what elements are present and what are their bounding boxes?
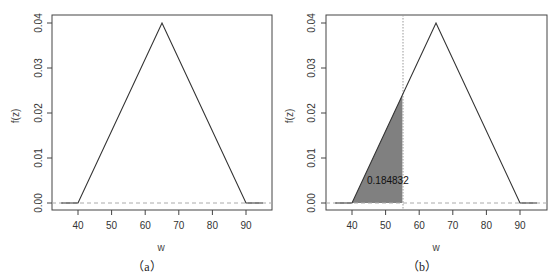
y-tick-label: 0.04 <box>306 13 317 33</box>
y-tick-label: 0.04 <box>33 13 44 33</box>
x-axis-b <box>352 210 520 215</box>
x-axis-title: w <box>156 242 165 253</box>
plot-frame-b <box>326 15 547 210</box>
y-axis-a <box>47 23 52 203</box>
x-axis-title: w <box>431 242 440 253</box>
y-tick-label: 0.01 <box>306 148 317 168</box>
x-tick-label: 70 <box>173 220 185 231</box>
x-tick-label: 90 <box>514 220 526 231</box>
y-axis-title: f(z) <box>10 109 21 123</box>
figure: 0.04 0.03 0.02 0.01 0.00 40 50 60 70 80 … <box>0 0 559 277</box>
x-tick-label: 40 <box>72 220 84 231</box>
y-tick-label: 0.02 <box>33 103 44 123</box>
x-tick-label: 50 <box>106 220 118 231</box>
area-value-annotation: 0.184832 <box>367 175 409 186</box>
x-tick-label: 60 <box>140 220 152 231</box>
x-tick-label: 70 <box>447 220 459 231</box>
x-tick-label: 40 <box>346 220 358 231</box>
panel-caption: （b） <box>407 260 437 274</box>
panel-a: 0.04 0.03 0.02 0.01 0.00 40 50 60 70 80 … <box>10 13 272 274</box>
x-tick-label: 60 <box>414 220 426 231</box>
panel-b: 0.04 0.03 0.02 0.01 0.00 40 50 60 70 80 … <box>284 13 547 274</box>
y-tick-label: 0.00 <box>33 193 44 213</box>
x-tick-label: 80 <box>481 220 493 231</box>
x-axis-a <box>78 210 246 215</box>
y-tick-label: 0.00 <box>306 193 317 213</box>
x-tick-label: 50 <box>380 220 392 231</box>
y-tick-label: 0.03 <box>33 58 44 78</box>
plot-frame-a <box>52 15 272 210</box>
panel-caption: （a） <box>132 260 161 274</box>
density-line <box>61 23 263 203</box>
y-tick-label: 0.01 <box>33 148 44 168</box>
y-axis-title: f(z) <box>284 109 295 123</box>
x-tick-label: 90 <box>240 220 252 231</box>
x-tick-label: 80 <box>207 220 219 231</box>
y-tick-label: 0.03 <box>306 58 317 78</box>
y-axis-b <box>321 23 326 203</box>
y-tick-label: 0.02 <box>306 103 317 123</box>
